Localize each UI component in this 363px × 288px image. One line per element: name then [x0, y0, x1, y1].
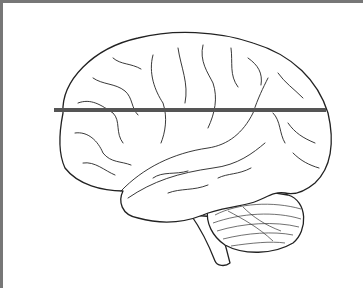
cerebrum: [60, 32, 331, 222]
brain-diagram: [3, 3, 363, 288]
figure-frame: [0, 0, 363, 288]
